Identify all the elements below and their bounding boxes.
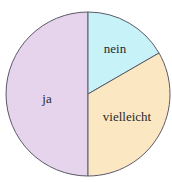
label-ja: ja xyxy=(41,91,52,106)
label-nein: nein xyxy=(104,41,127,56)
label-vielleicht: vielleicht xyxy=(103,109,152,124)
pie-chart: ja nein vielleicht xyxy=(0,0,172,182)
